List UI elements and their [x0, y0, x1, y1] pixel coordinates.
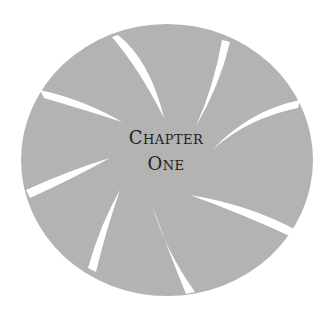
- chapter-number: One: [0, 153, 332, 174]
- chapter-label: Chapter: [0, 127, 332, 148]
